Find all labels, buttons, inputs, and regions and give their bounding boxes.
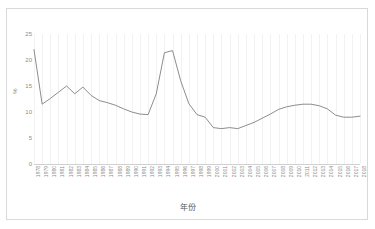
x-axis-tick-label: 1984 [85,166,90,177]
x-axis-tick-label: 2000 [215,166,220,177]
x-axis-tick-label: 2013 [321,166,326,177]
x-axis-tick-label: 1982 [69,166,74,177]
x-axis-tick-label: 1993 [158,166,163,177]
x-axis-tick-label: 2008 [281,166,286,177]
x-axis-tick-label: 1978 [36,166,41,177]
x-axis-tick-label: 1990 [134,166,139,177]
y-axis-tick-label: 0 [16,161,32,167]
gridline [360,34,361,164]
x-axis-tick-label: 2018 [362,166,367,177]
x-axis-tick-label: 2006 [264,166,269,177]
x-axis-tick-label: 1994 [166,166,171,177]
x-axis-tick-label: 1992 [150,166,155,177]
x-axis-tick-label: 2003 [240,166,245,177]
y-axis-tick-label: 10 [16,109,32,115]
x-axis-tick-label: 2010 [297,166,302,177]
x-axis-tick-label: 2011 [305,166,310,177]
x-axis-line [34,164,360,165]
y-axis-tick-label: 15 [16,83,32,89]
y-axis-tick-label: 25 [16,31,32,37]
x-axis-tick-label: 1983 [77,166,82,177]
x-axis-tick-label: 1979 [44,166,49,177]
x-axis-tick-label: 1991 [142,166,147,177]
x-axis-tick-label: 2001 [223,166,228,177]
x-axis-tick-label: 1988 [118,166,123,177]
x-axis-tick-label: 2016 [346,166,351,177]
data-series-line [34,34,360,164]
x-axis-tick-label: 1986 [101,166,106,177]
x-axis-tick-label: 2007 [272,166,277,177]
x-axis-tick-label: 2014 [329,166,334,177]
x-axis-tick-label: 2012 [313,166,318,177]
x-axis-tick-label: 1980 [52,166,57,177]
x-axis-tick-label: 2005 [256,166,261,177]
x-axis-tick-label: 2015 [338,166,343,177]
x-axis-tick-label: 1985 [93,166,98,177]
x-axis-tick-label: 1987 [109,166,114,177]
x-axis-tick-label: 2017 [354,166,359,177]
x-axis-tick-label: 1989 [126,166,131,177]
x-axis-tick-label: 1998 [199,166,204,177]
x-axis-tick-label: 2009 [289,166,294,177]
x-axis-tick-label: 1995 [175,166,180,177]
x-axis-tick-label: 1999 [207,166,212,177]
x-axis-tick-label: 1996 [183,166,188,177]
x-axis-tick-label: 2004 [248,166,253,177]
x-axis-title: 年份 [0,204,375,212]
plot-area [34,34,360,164]
y-axis-tick-labels: 0510152025 [16,34,32,164]
x-axis-tick-label: 1981 [60,166,65,177]
x-axis-tick-labels: 1978197919801981198219831984198519861987… [34,166,360,202]
x-axis-tick-label: 1997 [191,166,196,177]
y-axis-tick-label: 5 [16,135,32,141]
line-chart-figure: % 0510152025 197819791980198119821983198… [0,0,375,229]
y-axis-tick-label: 20 [16,57,32,63]
x-axis-tick-label: 2002 [232,166,237,177]
